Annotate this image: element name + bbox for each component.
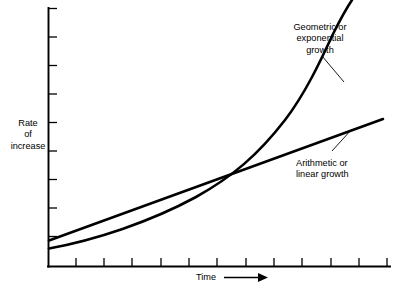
- y-axis-label-line-3: increase: [11, 141, 46, 151]
- leader-line-arithmetic: [332, 129, 352, 151]
- annotation-arithmetic-line-2: linear growth: [296, 169, 349, 179]
- annotation-arithmetic-growth: Arithmetic or linear growth: [296, 158, 388, 181]
- annotation-geometric-line-1: Geometric or: [293, 22, 346, 32]
- time-arrow-icon: [224, 273, 268, 282]
- figure-container: Rate of increase Time Geometric or expon…: [0, 0, 396, 290]
- x-axis-ticks: [76, 258, 387, 267]
- annotation-arithmetic-line-1: Arithmetic or: [296, 158, 348, 168]
- leader-line-geometric: [322, 56, 344, 82]
- annotation-geometric-growth: Geometric or exponential growth: [283, 22, 357, 56]
- y-axis-label-line-2: of: [24, 129, 32, 139]
- y-axis-label: Rate of increase: [6, 118, 50, 152]
- y-axis-label-line-1: Rate: [18, 118, 37, 128]
- x-axis-label: Time: [196, 272, 216, 283]
- x-axis-label-text: Time: [196, 272, 216, 282]
- annotation-geometric-line-2: exponential: [297, 33, 344, 43]
- annotation-geometric-line-3: growth: [306, 45, 334, 55]
